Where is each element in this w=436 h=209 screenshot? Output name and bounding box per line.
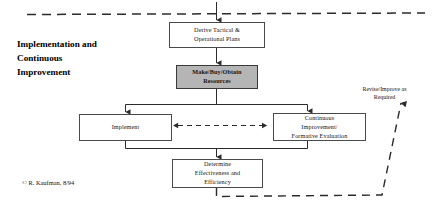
- node-continuous-improvement-formative-evaluation: Continuous Improvement/ Formative Evalua…: [273, 113, 366, 141]
- node-determine-label: Determine Effectiveness and Efficiency: [193, 160, 242, 187]
- node-derive-tactical-operational-plans: Derive Tactical & Operational Plans: [169, 22, 265, 48]
- node-make-label: Make/Buy/Obtain Resources: [190, 68, 243, 86]
- node-derive-label-line-2: Operational Plans: [194, 35, 240, 42]
- node-derive-label: Derive Tactical & Operational Plans: [192, 26, 242, 44]
- node-determine-effectiveness-efficiency: Determine Effectiveness and Efficiency: [172, 159, 263, 188]
- node-determine-label-line-3: Efficiency: [204, 178, 231, 185]
- node-make-label-line-1: Make/Buy/Obtain: [192, 68, 241, 75]
- node-implement: Implement: [79, 114, 172, 141]
- node-determine-label-line-1: Determine: [204, 160, 231, 167]
- copyright-notice: © R. Kaufman, 8/94: [22, 179, 74, 186]
- title-line-3: Improvement: [17, 66, 147, 80]
- diagram-title: Implementation and Continuous Improvemen…: [17, 38, 147, 79]
- node-derive-label-line-1: Derive Tactical &: [194, 26, 240, 33]
- node-implement-label: Implement: [110, 123, 142, 132]
- flowchart-diagram: Implementation and Continuous Improvemen…: [0, 0, 436, 209]
- node-make-buy-obtain-resources: Make/Buy/Obtain Resources: [176, 65, 258, 89]
- node-make-label-line-2: Resources: [203, 77, 231, 84]
- node-continuous-label-line-3: Formative Evaluation: [292, 132, 348, 139]
- node-continuous-label: Continuous Improvement/ Formative Evalua…: [290, 114, 350, 141]
- feedback-label-line-1: Revise/Improve as: [337, 85, 432, 93]
- title-line-2: Continuous: [17, 52, 147, 66]
- feedback-loop-label: Revise/Improve as Required: [337, 85, 432, 102]
- node-continuous-label-line-1: Continuous: [305, 114, 335, 121]
- node-continuous-label-line-2: Improvement/: [301, 123, 337, 130]
- node-determine-label-line-2: Effectiveness and: [195, 169, 240, 176]
- feedback-label-line-2: Required: [337, 93, 432, 101]
- top-boundary-dashed-line: [27, 13, 425, 15]
- title-line-1: Implementation and: [17, 38, 147, 52]
